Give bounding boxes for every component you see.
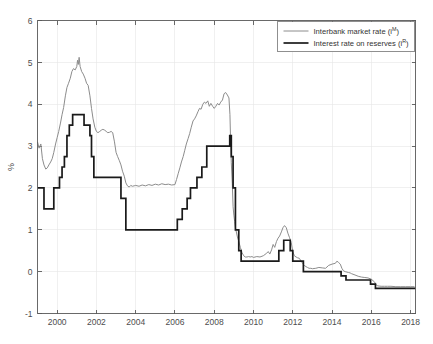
y-tick-label: 6 (28, 16, 33, 26)
x-tick-label: 2004 (126, 317, 145, 327)
y-tick-label: 0 (28, 267, 33, 277)
x-tick-label: 2010 (244, 317, 263, 327)
y-tick-label: -1 (25, 309, 33, 319)
x-tick-label: 2006 (165, 317, 184, 327)
y-tick-label: 5 (28, 58, 33, 68)
x-tick-label: 2012 (283, 317, 302, 327)
legend-label-interest-rate-on-reserves: Interest rate on reserves (iR) (314, 38, 410, 48)
x-tick-label: 2008 (205, 317, 224, 327)
legend-label-interbank-market-rate: Interbank market rate (iM) (314, 26, 400, 36)
x-tick-label: 2002 (87, 317, 106, 327)
y-axis-label: % (6, 163, 16, 171)
x-tick-label: 2000 (48, 317, 67, 327)
x-tick-label: 2018 (401, 317, 420, 327)
y-tick-label: 1 (28, 225, 33, 235)
y-tick-label: 3 (28, 141, 33, 151)
y-tick-label: 2 (28, 183, 33, 193)
x-tick-label: 2014 (323, 317, 342, 327)
chart-figure: 2000200220042006200820102012201420162018… (0, 0, 433, 344)
x-tick-label: 2016 (362, 317, 381, 327)
interest-rate-line-chart: 2000200220042006200820102012201420162018… (0, 0, 433, 344)
y-tick-label: 4 (28, 99, 33, 109)
chart-legend: Interbank market rate (iM)Interest rate … (278, 22, 415, 52)
